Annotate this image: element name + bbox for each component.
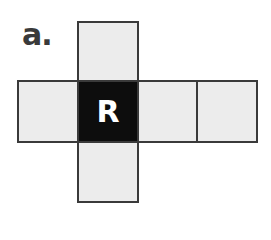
face-right-1 xyxy=(137,80,198,143)
face-bottom xyxy=(77,141,139,203)
face-center-marked: R xyxy=(77,80,139,143)
figure-label: a. xyxy=(22,20,52,50)
face-top xyxy=(77,21,139,82)
face-left xyxy=(17,80,79,143)
face-right-2 xyxy=(196,80,258,143)
face-letter: R xyxy=(96,97,119,127)
